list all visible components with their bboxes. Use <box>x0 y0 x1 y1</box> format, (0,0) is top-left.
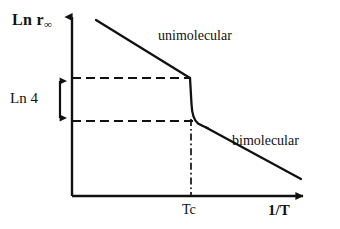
x-axis-title: 1/T <box>268 203 290 218</box>
unimolecular-branch-label: unimolecular <box>158 29 232 43</box>
y-axis-title-main: Ln r <box>12 11 44 28</box>
bimolecular-branch-label: bimolecular <box>232 134 299 148</box>
y-axis-title: Ln r∞ <box>12 12 52 30</box>
kinetics-arrhenius-diagram: Ln r∞ Ln 4 unimolecular bimolecular Tc 1… <box>0 0 340 229</box>
tc-tick-label: Tc <box>182 203 196 217</box>
gap-size-label: Ln 4 <box>10 91 38 106</box>
y-axis-title-subscript: ∞ <box>44 18 52 30</box>
